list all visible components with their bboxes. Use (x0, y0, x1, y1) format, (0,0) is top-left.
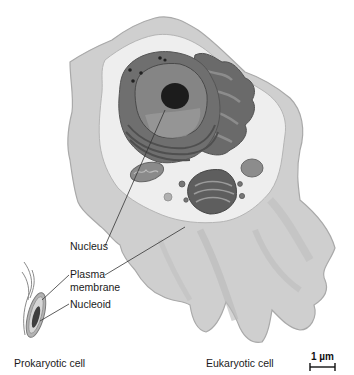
cell-comparison-figure: Nucleus Plasma membrane Nucleoid Prokary… (0, 0, 354, 375)
label-plasma-membrane-line1: Plasma (70, 268, 105, 280)
cell-illustration (0, 0, 354, 375)
nucleus (119, 52, 220, 163)
leader-line-plasma-membrane-prok (42, 275, 69, 300)
label-plasma-membrane-line2: membrane (70, 281, 120, 293)
scale-bar-label: 1 µm (311, 351, 334, 362)
vesicle-right (241, 159, 263, 177)
caption-prokaryotic-cell: Prokaryotic cell (14, 357, 85, 369)
caption-eukaryotic-cell: Eukaryotic cell (206, 357, 274, 369)
label-nucleoid: Nucleoid (70, 298, 111, 310)
label-nucleus: Nucleus (70, 240, 108, 252)
scale-bar (310, 363, 335, 371)
nucleolus (161, 83, 189, 109)
prokaryotic-cell-illustration (22, 262, 50, 339)
